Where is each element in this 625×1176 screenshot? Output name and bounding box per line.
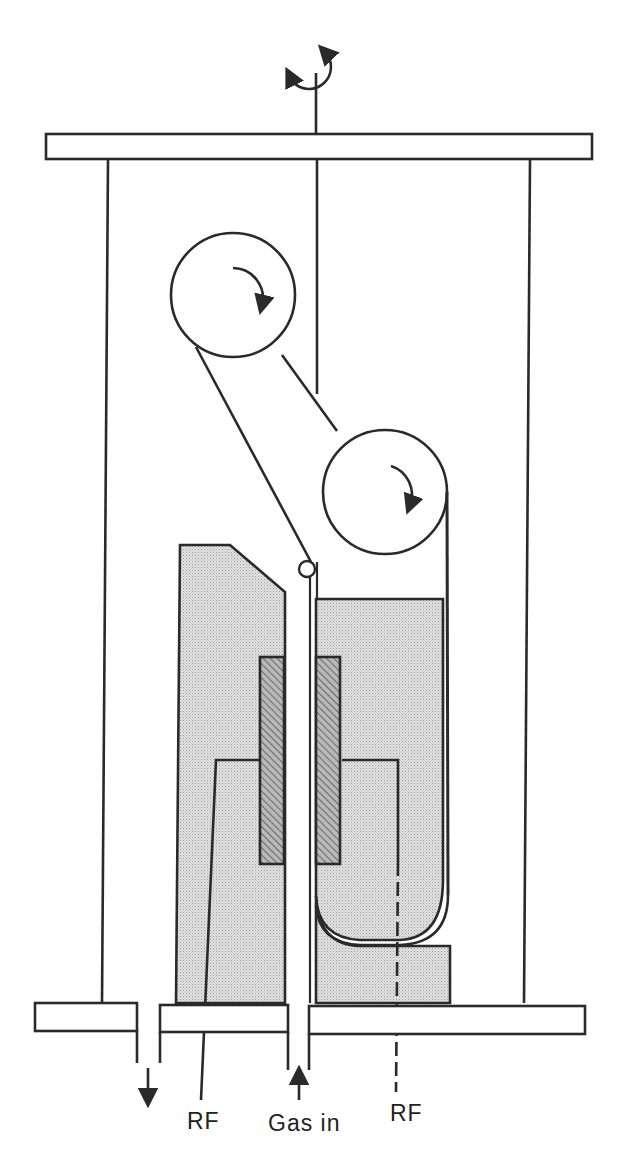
chamber-wall-left — [102, 160, 108, 1003]
gas-in-label: Gas in — [268, 1110, 340, 1137]
right-dielectric-insert — [316, 657, 340, 864]
web-guide-pin — [299, 561, 315, 577]
rf-right-label: RF — [390, 1100, 423, 1127]
left-dielectric-insert — [260, 657, 284, 864]
top-plate — [46, 134, 592, 159]
rotation-arrow-icon — [290, 49, 331, 133]
reactor-diagram — [0, 0, 625, 1176]
base-plate-right — [309, 1006, 585, 1034]
chamber-wall-right — [524, 160, 530, 1003]
base-plate-center — [160, 1005, 288, 1032]
base-plate-left — [35, 1003, 137, 1031]
lower-roller — [323, 430, 447, 554]
rf-left-label: RF — [187, 1108, 220, 1135]
upper-roller — [171, 233, 295, 357]
